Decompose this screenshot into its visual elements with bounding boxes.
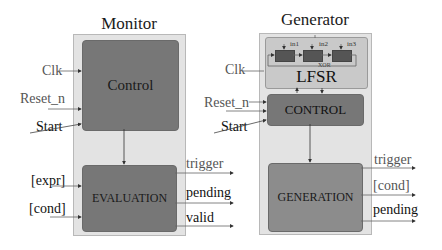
wires (0, 0, 442, 250)
